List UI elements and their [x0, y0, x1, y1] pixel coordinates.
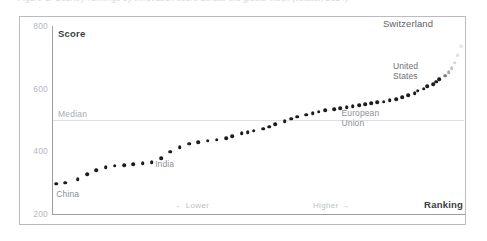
- scatter-point: [104, 166, 108, 170]
- scatter-point: [444, 74, 448, 78]
- scatter-point: [274, 122, 278, 126]
- annotation-united-states-line2: States: [393, 72, 418, 82]
- scatter-point: [113, 164, 117, 168]
- scatter-point: [246, 130, 250, 134]
- scatter-point: [196, 140, 200, 144]
- scatter-point: [447, 71, 451, 75]
- y-tick-label: 800: [33, 21, 48, 31]
- scatter-point: [382, 100, 386, 104]
- y-tick-label: 600: [33, 84, 48, 94]
- x-axis-line: [52, 214, 465, 215]
- scatter-point: [363, 103, 367, 107]
- scatter-point: [317, 110, 321, 114]
- median-label: Median: [58, 109, 87, 119]
- scatter-point: [169, 150, 173, 154]
- scatter-point: [369, 102, 373, 106]
- scatter-point: [141, 161, 145, 165]
- scatter-point: [224, 137, 228, 141]
- scatter-point: [215, 138, 219, 142]
- x-axis-lower-direction-label: ← Lower: [175, 201, 209, 210]
- scatter-point: [416, 89, 420, 93]
- scatter-point: [450, 66, 454, 70]
- scatter-point: [283, 119, 287, 123]
- x-axis-title: Ranking: [424, 199, 463, 210]
- scatter-point: [178, 145, 182, 149]
- scatter-point: [323, 108, 327, 112]
- annotation-european-union-line2: Union: [342, 119, 380, 129]
- scatter-point: [240, 132, 244, 136]
- figure-frame: 800600400200 Median Score Ranking ← Lowe…: [19, 16, 466, 225]
- scatter-point: [400, 95, 404, 99]
- scatter-point: [357, 103, 361, 107]
- scatter-point: [187, 142, 191, 146]
- scatter-point: [85, 172, 89, 176]
- scatter-point: [252, 129, 256, 133]
- scatter-point: [94, 168, 98, 172]
- x-axis-higher-direction-label: Higher →: [313, 201, 349, 210]
- scatter-point: [261, 127, 265, 131]
- scatter-point: [376, 101, 380, 105]
- scatter-point: [206, 139, 210, 143]
- scatter-point: [437, 77, 441, 81]
- y-tick-label: 400: [33, 146, 48, 156]
- y-axis-title: Score: [58, 28, 85, 39]
- annotation-india: India: [155, 160, 174, 170]
- scatter-point: [425, 84, 429, 88]
- scatter-point: [150, 160, 154, 164]
- scatter-point: [54, 182, 58, 186]
- scatter-point: [394, 97, 398, 101]
- y-tick-label: 200: [33, 209, 48, 219]
- scatter-point: [305, 113, 309, 117]
- scatter-point: [311, 111, 315, 115]
- scatter-point: [122, 163, 126, 167]
- scatter-point: [332, 108, 336, 112]
- median-reference-line: [53, 120, 464, 121]
- plot-area: 800600400200 Median Score Ranking ← Lowe…: [20, 17, 467, 226]
- scatter-point: [230, 134, 234, 138]
- scatter-point: [407, 93, 411, 97]
- scatter-point: [388, 98, 392, 102]
- scatter-point: [456, 54, 460, 58]
- scatter-point: [295, 115, 299, 119]
- annotation-european-union: European Union: [342, 109, 380, 128]
- scatter-point: [459, 44, 463, 48]
- scatter-point: [76, 177, 80, 181]
- annotation-china: China: [56, 190, 79, 200]
- annotation-united-states: United States: [393, 62, 418, 81]
- annotation-switzerland: Switzerland: [383, 19, 433, 29]
- scatter-point: [453, 61, 457, 65]
- figure-caption-strip: Figure 1: Country rankings by innovation…: [0, 0, 487, 13]
- scatter-point: [64, 181, 68, 185]
- scatter-point: [268, 125, 272, 129]
- scatter-point: [289, 117, 293, 121]
- scatter-point: [132, 163, 136, 167]
- figure-caption-text: Figure 1: Country rankings by innovation…: [18, 0, 348, 3]
